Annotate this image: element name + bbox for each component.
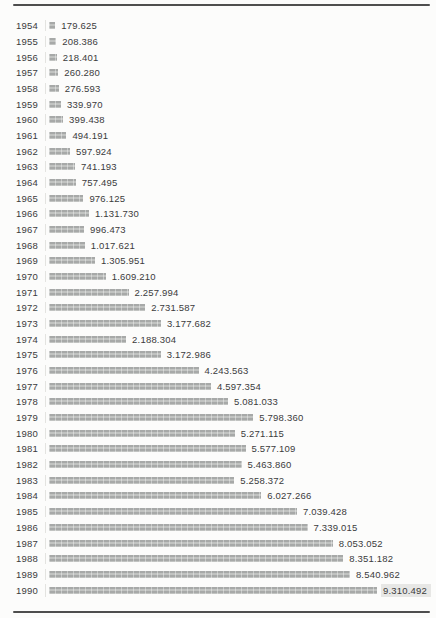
bar-track: 260.280 <box>45 67 430 78</box>
value-label: 6.027.266 <box>267 490 311 501</box>
bar-row: 19785.081.033 <box>14 394 430 410</box>
bar-track: 5.258.372 <box>45 475 430 486</box>
bar-track: 1.131.730 <box>45 208 430 219</box>
bar-row: 19857.039.428 <box>14 504 430 520</box>
bar-row: 1964757.495 <box>14 175 430 191</box>
year-label: 1980 <box>14 428 38 439</box>
bar-row: 19898.540.962 <box>14 567 430 583</box>
bar-track: 208.386 <box>45 36 430 47</box>
value-label: 260.280 <box>64 67 100 78</box>
year-label: 1975 <box>14 349 38 360</box>
bar <box>49 179 76 186</box>
value-label: 757.495 <box>82 177 118 188</box>
bar-row: 1962597.924 <box>14 143 430 159</box>
value-label: 7.339.015 <box>314 522 358 533</box>
year-label: 1972 <box>14 302 38 313</box>
bar-track: 976.125 <box>45 193 430 204</box>
year-label: 1965 <box>14 193 38 204</box>
year-label: 1971 <box>14 287 38 298</box>
year-label: 1976 <box>14 365 38 376</box>
year-label: 1958 <box>14 83 38 94</box>
bar-row: 19661.131.730 <box>14 206 430 222</box>
bar <box>49 85 59 92</box>
year-label: 1955 <box>14 36 38 47</box>
bar <box>49 304 145 311</box>
bar <box>49 257 95 264</box>
bar-track: 494.191 <box>45 130 430 141</box>
bar <box>49 116 63 123</box>
year-label: 1959 <box>14 99 38 110</box>
value-label: 9.310.492 <box>381 584 431 597</box>
bar-row: 19701.609.210 <box>14 269 430 285</box>
bar <box>49 163 75 170</box>
value-label: 5.577.109 <box>252 443 296 454</box>
bar-track: 1.305.951 <box>45 255 430 266</box>
value-label: 5.271.115 <box>241 428 284 439</box>
bar <box>49 430 235 437</box>
bar-track: 4.597.354 <box>45 381 430 392</box>
value-label: 8.540.962 <box>356 569 400 580</box>
bar-row: 1957260.280 <box>14 65 430 81</box>
value-label: 1.017.621 <box>91 240 135 251</box>
value-label: 996.473 <box>90 224 126 235</box>
bar <box>49 132 66 139</box>
bar <box>49 351 161 358</box>
bar-track: 757.495 <box>45 177 430 188</box>
value-label: 5.463.860 <box>248 459 292 470</box>
year-label: 1978 <box>14 396 38 407</box>
bar <box>49 367 199 374</box>
bar-row: 19805.271.115 <box>14 425 430 441</box>
value-label: 399.438 <box>69 114 105 125</box>
value-label: 4.597.354 <box>217 381 261 392</box>
year-label: 1966 <box>14 208 38 219</box>
bar-row: 19691.305.951 <box>14 253 430 269</box>
year-label: 1969 <box>14 255 38 266</box>
bar-track: 8.351.182 <box>45 553 430 564</box>
bar-track: 399.438 <box>45 114 430 125</box>
year-label: 1960 <box>14 114 38 125</box>
value-label: 1.131.730 <box>95 208 139 219</box>
year-label: 1963 <box>14 161 38 172</box>
bar-row: 19753.172.986 <box>14 347 430 363</box>
bar-row: 19825.463.860 <box>14 457 430 473</box>
bar <box>49 587 377 594</box>
bar-row: 19888.351.182 <box>14 551 430 567</box>
year-label: 1970 <box>14 271 38 282</box>
bar-row: 19764.243.563 <box>14 363 430 379</box>
year-label: 1985 <box>14 506 38 517</box>
bar-row: 19909.310.492 <box>14 582 430 598</box>
bar-track: 5.577.109 <box>45 443 430 454</box>
bar <box>49 54 57 61</box>
year-label: 1984 <box>14 490 38 501</box>
bar-row: 19742.188.304 <box>14 331 430 347</box>
bar-track: 3.177.682 <box>45 318 430 329</box>
bar <box>49 69 58 76</box>
bar-track: 741.193 <box>45 161 430 172</box>
value-label: 5.081.033 <box>234 396 278 407</box>
value-label: 741.193 <box>81 161 117 172</box>
value-label: 597.924 <box>76 146 112 157</box>
bar-row: 19835.258.372 <box>14 472 430 488</box>
value-label: 5.258.372 <box>240 475 284 486</box>
value-label: 8.351.182 <box>349 553 393 564</box>
value-label: 1.609.210 <box>112 271 156 282</box>
bar-track: 8.540.962 <box>45 569 430 580</box>
bar-track: 4.243.563 <box>45 365 430 376</box>
bar <box>49 242 85 249</box>
year-label: 1967 <box>14 224 38 235</box>
year-label: 1974 <box>14 334 38 345</box>
bar-track: 8.053.052 <box>45 538 430 549</box>
bar-row: 19733.177.682 <box>14 316 430 332</box>
bar-row: 19795.798.360 <box>14 410 430 426</box>
bar <box>49 540 333 547</box>
year-label: 1961 <box>14 130 38 141</box>
bar <box>49 289 129 296</box>
year-label: 1964 <box>14 177 38 188</box>
top-rule <box>13 4 430 6</box>
bar <box>49 571 350 578</box>
value-label: 1.305.951 <box>101 255 145 266</box>
bar-row: 1958276.593 <box>14 81 430 97</box>
bar-row: 19681.017.621 <box>14 237 430 253</box>
bar-row: 1963741.193 <box>14 159 430 175</box>
value-label: 2.257.994 <box>135 287 179 298</box>
